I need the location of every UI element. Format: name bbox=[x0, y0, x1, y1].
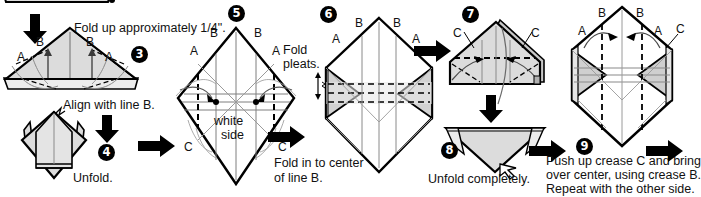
caption-fold-pleats-line2: pleats. bbox=[283, 58, 320, 72]
panel5-label-c-left: C bbox=[184, 140, 193, 154]
panel6-label-b-right: B bbox=[393, 16, 401, 30]
panel7-label-c-right: C bbox=[531, 26, 540, 40]
right-arrow-step4-to-step5-icon bbox=[138, 135, 176, 157]
panel6-label-b-left: B bbox=[355, 16, 363, 30]
panel5-label-b-right: B bbox=[254, 26, 262, 40]
caption-push-up-line3: Repeat with the other side. bbox=[546, 183, 695, 197]
caption-unfold-completely: Unfold completely. bbox=[428, 173, 530, 187]
step-marker-4: 4 bbox=[98, 144, 115, 161]
panel6-label-a-left: A bbox=[332, 32, 340, 46]
right-arrow-step9-next-icon bbox=[646, 140, 684, 162]
panel9-label-b-right: B bbox=[636, 6, 644, 20]
step-marker-5: 5 bbox=[228, 5, 245, 22]
panel5-label-a-right: A bbox=[272, 44, 280, 58]
panel3-label-b-right: B bbox=[86, 35, 94, 49]
step-marker-9: 9 bbox=[576, 138, 593, 155]
panel9-label-b-left: B bbox=[598, 6, 606, 20]
down-arrow-step7-to-step8-icon bbox=[478, 95, 504, 123]
caption-fold-in-to-center-line2: of line B. bbox=[274, 172, 323, 186]
panel5-white-side-line2: side bbox=[221, 129, 244, 143]
caption-unfold: Unfold. bbox=[73, 172, 113, 186]
panel5-label-a-left: A bbox=[190, 44, 198, 58]
panel5-label-b-left: B bbox=[210, 26, 218, 40]
caption-push-up-line2: over center, using crease B. bbox=[546, 169, 701, 183]
right-arrow-step5-to-step6-icon bbox=[268, 126, 306, 148]
panel3-label-a-right: A bbox=[105, 50, 113, 64]
panel9-label-a-right: A bbox=[654, 24, 662, 38]
panel5-white-side-line1: white bbox=[214, 115, 243, 129]
panel7-label-c-left: C bbox=[453, 26, 462, 40]
step-marker-3: 3 bbox=[131, 46, 148, 63]
panel9-label-c-right: C bbox=[676, 22, 685, 36]
panel3-label-b-left: B bbox=[36, 35, 44, 49]
panel9-label-a-left: A bbox=[578, 24, 586, 38]
step-marker-8: 8 bbox=[441, 142, 458, 159]
caption-fold-pleats-line1: Fold bbox=[283, 44, 307, 58]
panel3-label-a-left: A bbox=[17, 50, 25, 64]
